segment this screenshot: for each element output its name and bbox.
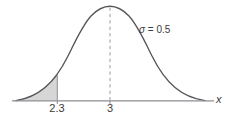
shaded-tail-region — [17, 75, 58, 100]
sigma-equals-sign: = — [145, 24, 156, 35]
x-tick-label-2-3: 2.3 — [43, 102, 71, 114]
normal-distribution-figure: 2.3 3 x σ = 0.5 — [0, 0, 234, 126]
sigma-annotation: σ = 0.5 — [139, 24, 170, 36]
x-axis-label: x — [216, 93, 222, 105]
sigma-value: 0.5 — [156, 24, 170, 35]
x-tick-label-3: 3 — [99, 102, 121, 114]
